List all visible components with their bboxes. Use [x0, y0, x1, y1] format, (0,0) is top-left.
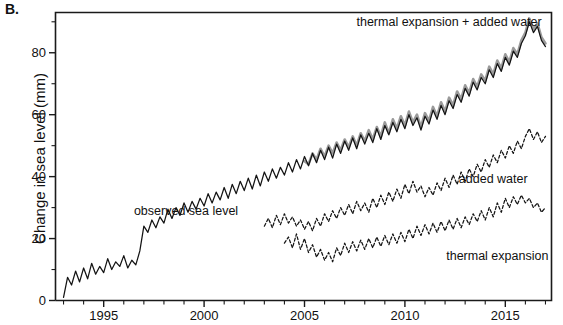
y-tick-label: 20 — [32, 231, 46, 246]
sea-level-chart: 020406080 19952000200520102015 observed … — [0, 0, 563, 325]
x-tick-label: 2000 — [190, 308, 219, 323]
annotation-thermal-expansion: thermal expansion — [446, 249, 548, 263]
x-axis-tick-labels: 19952000200520102015 — [89, 308, 520, 323]
y-axis-major-ticks — [49, 53, 56, 301]
series-annotations: observed sea levelthermal expansion + ad… — [134, 15, 548, 263]
y-tick-label: 80 — [32, 45, 46, 60]
y-tick-label: 0 — [39, 293, 46, 308]
x-tick-label: 2010 — [390, 308, 419, 323]
x-tick-label: 1995 — [89, 308, 118, 323]
series-thermal-expansion-added-water — [305, 19, 546, 165]
y-tick-label: 60 — [32, 107, 46, 122]
x-tick-label: 2005 — [290, 308, 319, 323]
y-tick-label: 40 — [32, 169, 46, 184]
y-axis-tick-labels: 020406080 — [32, 45, 46, 308]
annotation-thermal-expansion-plus-added-water: thermal expansion + added water — [356, 15, 541, 29]
annotation-observed-sea-level: observed sea level — [134, 204, 238, 218]
x-tick-label: 2015 — [491, 308, 520, 323]
figure-panel-b: B. Change in sea level (mm) 020406080 19… — [0, 0, 563, 325]
annotation-added-water: added water — [459, 172, 528, 186]
